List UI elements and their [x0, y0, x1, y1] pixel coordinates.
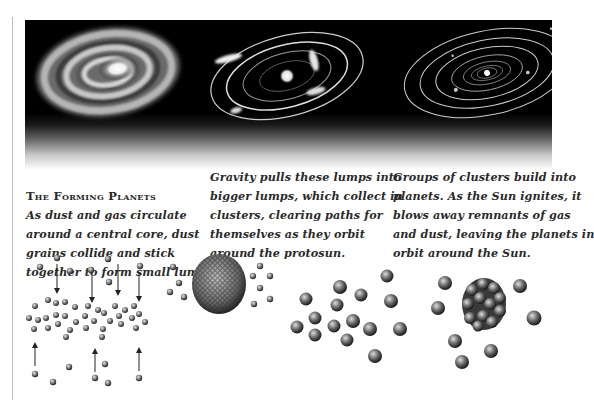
caption-line: clusters, clearing paths for: [210, 206, 403, 225]
caption-heading: The Forming Planets: [26, 187, 217, 206]
caption-line: Gravity pulls these lumps into: [210, 168, 403, 187]
caption-line: and dust, leaving the planets in: [393, 225, 594, 244]
caption-line: Groups of clusters build into: [393, 168, 594, 187]
protosun-illustration: [201, 20, 372, 135]
formation-illustration-band: [25, 20, 552, 170]
caption-line: bigger lumps, which collect in: [210, 187, 403, 206]
diagram-lump-cluster: [160, 248, 285, 398]
caption-line: As dust and gas circulate: [26, 206, 217, 225]
caption-line: planets. As the Sun ignites, it: [393, 187, 594, 206]
caption-line: around a central core, dust: [26, 225, 217, 244]
spiral-disk-illustration: [31, 20, 186, 126]
caption-line: themselves as they orbit: [210, 225, 403, 244]
diagram-clusters: [285, 248, 420, 398]
diagram-planet: [420, 248, 573, 398]
page-margin-rule: [12, 17, 13, 400]
diagram-grains-colliding: [20, 248, 160, 398]
solar-system-illustration: [396, 20, 552, 132]
caption-line: blows away remnants of gas: [393, 206, 594, 225]
